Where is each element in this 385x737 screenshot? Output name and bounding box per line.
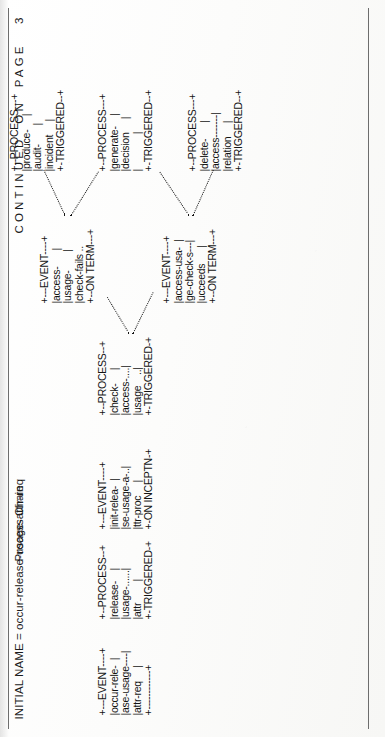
edge-fails-to-audit — [43, 169, 65, 215]
ascii-node-event-init-release-usage-attr-proc: +---EVENT----+ |init-relea- | |se-usage-… — [96, 448, 154, 529]
rotated-sheet: INITIAL NAME = occur-release-usage-attir… — [0, 0, 385, 737]
ascii-node-process-check-access-usage: +--PROCESS--+ |check- | |access-....| |u… — [96, 337, 154, 415]
scanned-page: INITIAL NAME = occur-release-usage-attir… — [0, 0, 385, 737]
edge-succeeds-to-delete — [192, 169, 213, 215]
ascii-node-event-access-usage-check-fails: +---EVENT----+ |access- | |usage- | |che… — [38, 229, 96, 303]
edge-check-to-fails — [106, 296, 128, 333]
ascii-node-process-generate-decision: +--PROCESS---+ |generate- | |decision | … — [96, 89, 154, 171]
edge-succeeds-to-decision — [159, 171, 189, 215]
ascii-node-process-release-usage-attr: +--PROCESS--+ |release- | |usage-......|… — [96, 541, 154, 619]
ascii-node-event-occur-release: +---EVENT----+ |occur-rele- | |ase-usage… — [96, 647, 154, 715]
edge-fails-to-decision — [70, 171, 98, 216]
edge-check-to-succeeds — [132, 292, 153, 334]
ascii-node-process-produce-audit-incident: +--PROCESS---+ |produce- | |audit- | |in… — [8, 89, 66, 171]
diagram-title: Process Chain — [12, 485, 24, 561]
ascii-node-event-access-usage-check-succeeds: +---EVENT----+ |access-usa- | |ge-check-… — [160, 229, 218, 303]
sheet-content: INITIAL NAME = occur-release-usage-attir… — [0, 0, 385, 737]
ascii-node-process-delete-access-relation: +--PROCESS---+ |delete- | |access-------… — [186, 89, 244, 171]
